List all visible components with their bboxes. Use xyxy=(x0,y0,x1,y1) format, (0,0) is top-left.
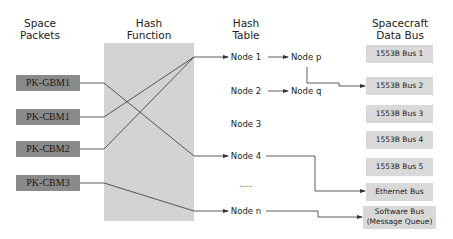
node-ellipsis: ...... xyxy=(226,180,266,190)
bus-1553b-2: 1553B Bus 2 xyxy=(366,77,433,95)
node-4: Node 4 xyxy=(226,151,266,161)
software-bus-line1: Software Bus xyxy=(363,207,436,217)
node-q: Node q xyxy=(291,86,321,96)
wire-cbm3-noden xyxy=(80,183,194,211)
wire-nodep-bus2 xyxy=(307,67,365,86)
node-p: Node p xyxy=(291,52,321,62)
bus-1553b-5: 1553B Bus 5 xyxy=(366,158,433,176)
node-3: Node 3 xyxy=(226,119,266,129)
wire-cbm1-node1 xyxy=(80,57,194,117)
packet-pk-gbm1: PK-GBM1 xyxy=(16,75,80,91)
software-bus-line2: (Message Queue) xyxy=(363,217,436,227)
bus-1553b-1: 1553B Bus 1 xyxy=(366,45,433,63)
packet-pk-cbm1: PK-CBM1 xyxy=(16,109,80,125)
wire-noden-software xyxy=(266,211,362,217)
wire-cbm2-node1 xyxy=(80,57,194,149)
bus-ethernet: Ethernet Bus xyxy=(366,183,433,201)
node-2: Node 2 xyxy=(226,86,266,96)
node-n: Node n xyxy=(226,206,266,216)
packet-pk-cbm3: PK-CBM3 xyxy=(16,175,80,191)
packet-pk-cbm2: PK-CBM2 xyxy=(16,141,80,157)
wire-gbm1-node4 xyxy=(80,83,194,156)
wire-node4-ethernet xyxy=(266,156,365,191)
bus-1553b-4: 1553B Bus 4 xyxy=(366,131,433,149)
bus-1553b-3: 1553B Bus 3 xyxy=(366,105,433,123)
node-1: Node 1 xyxy=(226,52,266,62)
bus-software-message-queue: Software Bus (Message Queue) xyxy=(363,206,436,229)
